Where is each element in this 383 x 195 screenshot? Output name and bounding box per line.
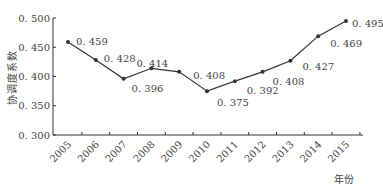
data-label: 0. 427 xyxy=(302,61,334,72)
x-tick-label: 2012 xyxy=(242,139,268,165)
data-point-marker xyxy=(316,34,320,38)
data-point-marker xyxy=(122,77,126,81)
data-label: 0. 408 xyxy=(273,76,305,87)
data-label: 0. 428 xyxy=(104,53,136,64)
x-tick-label: 2007 xyxy=(103,139,129,165)
data-point-marker xyxy=(344,19,348,23)
y-tick-label: 0. 300 xyxy=(18,130,50,141)
data-label: 0. 396 xyxy=(132,83,164,94)
data-point-marker xyxy=(66,40,70,44)
data-label: 0. 459 xyxy=(76,36,108,47)
data-point-marker xyxy=(177,70,181,74)
data-point-marker xyxy=(233,79,237,83)
data-label: 0. 495 xyxy=(352,18,383,29)
data-label: 0. 408 xyxy=(193,70,225,81)
x-tick-label: 2011 xyxy=(214,139,240,165)
x-axis-ticks: 2005200620072008200920102011201220132014… xyxy=(48,132,360,164)
x-tick-label: 2015 xyxy=(326,139,352,165)
y-tick-label: 0. 450 xyxy=(18,42,50,53)
x-tick-label: 2005 xyxy=(48,139,74,165)
y-axis-label: 协调度系数 xyxy=(6,50,18,105)
data-point-marker xyxy=(261,70,265,74)
y-tick-label: 0. 400 xyxy=(18,71,50,82)
x-tick-label: 2010 xyxy=(187,139,213,165)
x-tick-label: 2014 xyxy=(298,139,324,165)
y-axis-ticks: 0. 3000. 3500. 4000. 4500. 500 xyxy=(18,13,56,141)
x-tick-label: 2006 xyxy=(75,139,101,165)
y-tick-label: 0. 350 xyxy=(18,100,50,111)
data-label: 0. 469 xyxy=(330,38,362,49)
data-point-marker xyxy=(94,58,98,62)
data-point-marker xyxy=(288,59,292,63)
x-tick-label: 2008 xyxy=(131,139,157,165)
x-axis-label: 年份 xyxy=(334,173,354,185)
data-point-marker xyxy=(205,89,209,93)
data-label: 0. 375 xyxy=(217,97,249,108)
line-chart: 0. 3000. 3500. 4000. 4500. 500 200520062… xyxy=(0,0,383,195)
x-tick-label: 2009 xyxy=(159,139,185,165)
x-tick-label: 2013 xyxy=(270,139,296,165)
data-labels: 0. 4590. 4280. 3960. 4140. 4080. 3750. 3… xyxy=(76,18,383,108)
data-label: 0. 414 xyxy=(136,58,168,69)
data-label: 0. 392 xyxy=(247,85,279,96)
y-tick-label: 0. 500 xyxy=(18,13,50,24)
